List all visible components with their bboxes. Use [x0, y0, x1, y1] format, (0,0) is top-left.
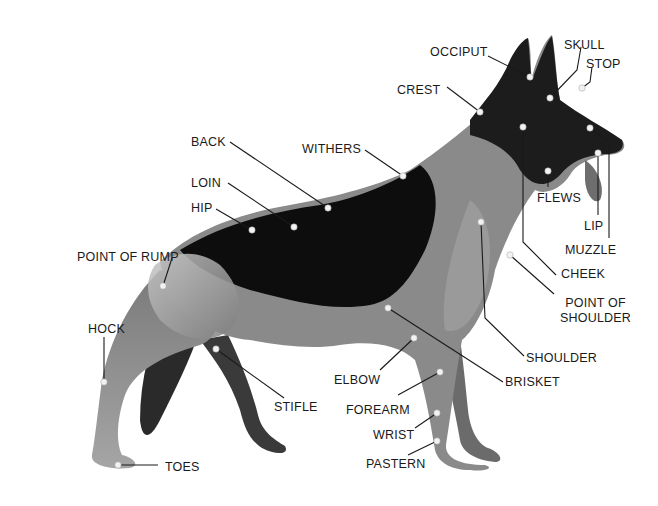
- label-skull: SKULL: [564, 38, 605, 53]
- label-back: BACK: [191, 135, 226, 150]
- label-flews: FLEWS: [537, 191, 581, 206]
- dog-anatomy-diagram: OCCIPUT SKULL STOP CREST BACK WITHERS LO…: [0, 0, 658, 506]
- label-withers: WITHERS: [302, 142, 361, 157]
- far-hind-leg: [200, 335, 286, 453]
- label-point-of-shoulder: POINT OF SHOULDER: [560, 296, 631, 326]
- label-point-of-rump: POINT OF RUMP: [77, 250, 179, 265]
- label-crest: CREST: [397, 83, 440, 98]
- label-hock: HOCK: [88, 322, 125, 337]
- label-brisket: BRISKET: [505, 375, 560, 390]
- label-forearm: FOREARM: [346, 403, 410, 418]
- tongue: [585, 160, 602, 201]
- label-toes: TOES: [165, 460, 200, 475]
- label-muzzle: MUZZLE: [565, 243, 616, 258]
- label-wrist: WRIST: [373, 428, 414, 443]
- label-cheek: CHEEK: [561, 267, 605, 282]
- label-hip: HIP: [191, 201, 212, 216]
- label-occiput: OCCIPUT: [430, 45, 488, 60]
- label-pastern: PASTERN: [366, 457, 426, 472]
- label-stop: STOP: [586, 57, 621, 72]
- label-lip: LIP: [584, 219, 603, 234]
- label-stifle: STIFLE: [274, 400, 318, 415]
- label-loin: LOIN: [191, 176, 221, 191]
- label-shoulder: SHOULDER: [526, 351, 597, 366]
- label-elbow: ELBOW: [334, 373, 380, 388]
